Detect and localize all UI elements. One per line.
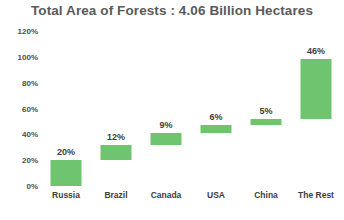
x-axis-category-label: Canada — [141, 190, 191, 200]
x-axis-category-label: Russia — [41, 190, 91, 200]
bar-value-label: 6% — [209, 112, 222, 122]
y-axis-tick-label: 20% — [0, 156, 38, 165]
bar-group: 46% — [291, 31, 341, 186]
y-axis-tick-label: 60% — [0, 104, 38, 113]
bar-group: 12% — [91, 31, 141, 186]
plot-area: 20%12%9%6%5%46% — [41, 31, 341, 186]
bar-value-label: 46% — [307, 46, 325, 56]
y-axis-tick-label: 40% — [0, 130, 38, 139]
x-axis-category-label: USA — [191, 190, 241, 200]
bar-value-label: 5% — [259, 106, 272, 116]
bar[interactable] — [251, 119, 282, 125]
bar-group: 20% — [41, 31, 91, 186]
bar[interactable] — [51, 160, 82, 186]
bar[interactable] — [151, 133, 182, 145]
forest-area-waterfall-chart: Total Area of Forests : 4.06 Billion Hec… — [0, 0, 344, 220]
bar-value-label: 20% — [57, 147, 75, 157]
bar-value-label: 9% — [159, 120, 172, 130]
bar-group: 9% — [141, 31, 191, 186]
x-axis-category-label: China — [241, 190, 291, 200]
y-axis-tick-label: 0% — [0, 182, 38, 191]
x-axis-category-label: The Rest — [291, 190, 341, 200]
bar[interactable] — [101, 145, 132, 161]
x-axis-category-label: Brazil — [91, 190, 141, 200]
bar[interactable] — [301, 59, 332, 118]
y-axis-tick-label: 120% — [0, 27, 38, 36]
bar-value-label: 12% — [107, 132, 125, 142]
y-axis-tick-label: 100% — [0, 52, 38, 61]
bar[interactable] — [201, 125, 232, 133]
y-axis: 0%20%40%60%80%100%120% — [0, 31, 38, 186]
bar-group: 5% — [241, 31, 291, 186]
chart-title: Total Area of Forests : 4.06 Billion Hec… — [0, 3, 344, 18]
y-axis-tick-label: 80% — [0, 78, 38, 87]
bar-group: 6% — [191, 31, 241, 186]
